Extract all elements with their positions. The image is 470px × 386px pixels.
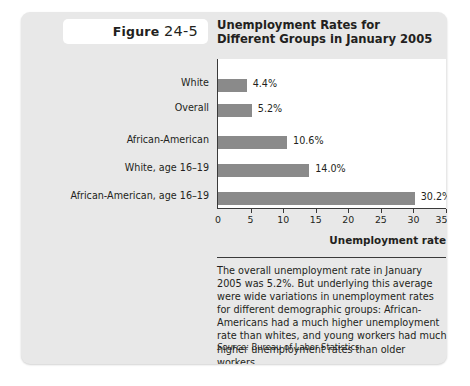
bar	[218, 79, 247, 92]
x-axis-tick	[446, 209, 447, 213]
figure-title-line-1: Unemployment Rates for	[217, 19, 445, 33]
bar-value-label: 5.2%	[258, 103, 282, 114]
bar-category-label: White, age 16–19	[21, 162, 209, 173]
bar-row: African-American10.6%	[21, 136, 447, 149]
figure-title: Unemployment Rates for Different Groups …	[217, 19, 445, 46]
bar-category-label: Overall	[21, 102, 209, 113]
x-axis-tick-label: 25	[375, 214, 387, 225]
bar-category-label: African-American	[21, 134, 209, 145]
figure-number-text: Figure 24-5	[113, 23, 198, 39]
bar-row: African-American, age 16–1930.2%	[21, 192, 447, 205]
x-axis-tick	[283, 209, 284, 213]
figure-number: 24-5	[164, 23, 198, 39]
caption-source: Source: Bureau of Labor Statistics.	[217, 342, 447, 352]
figure-card: Figure 24-5 Unemployment Rates for Diffe…	[21, 12, 447, 364]
source-value: Bureau of Labor Statistics.	[251, 342, 362, 352]
x-axis-tick	[348, 209, 349, 213]
x-axis-tick-label: 20	[342, 214, 354, 225]
bar-category-label: African-American, age 16–19	[21, 190, 209, 201]
bar-row: White4.4%	[21, 79, 447, 92]
x-axis-tick-label: 10	[277, 214, 289, 225]
bar-value-label: 10.6%	[293, 135, 323, 146]
bar-value-label: 30.2%	[421, 191, 447, 202]
figure-number-badge: Figure 24-5	[63, 19, 208, 44]
figure-word: Figure	[113, 24, 160, 39]
bar	[218, 136, 287, 149]
x-axis-tick-label: 0	[215, 214, 221, 225]
bar-row: White, age 16–1914.0%	[21, 164, 447, 177]
x-axis-tick-label: 15	[310, 214, 322, 225]
x-axis-tick	[316, 209, 317, 213]
x-axis-title: Unemployment rate	[217, 234, 446, 246]
x-axis-tick-label: 35%	[436, 214, 447, 225]
bar	[218, 164, 309, 177]
x-axis-tick	[381, 209, 382, 213]
caption-divider	[217, 257, 446, 258]
bar	[218, 104, 252, 117]
source-label: Source:	[217, 342, 249, 352]
bar-category-label: White	[21, 77, 209, 88]
x-axis-tick	[413, 209, 414, 213]
bar-row: Overall5.2%	[21, 104, 447, 117]
bar-chart: White4.4%Overall5.2%African-American10.6…	[21, 59, 447, 227]
x-axis-tick-label: 30	[407, 214, 419, 225]
x-axis-tick-label: 5	[248, 214, 254, 225]
figure-title-line-2: Different Groups in January 2005	[217, 33, 445, 47]
x-axis-tick	[251, 209, 252, 213]
bar-value-label: 4.4%	[253, 78, 277, 89]
bar-value-label: 14.0%	[315, 163, 345, 174]
bar	[218, 192, 415, 205]
